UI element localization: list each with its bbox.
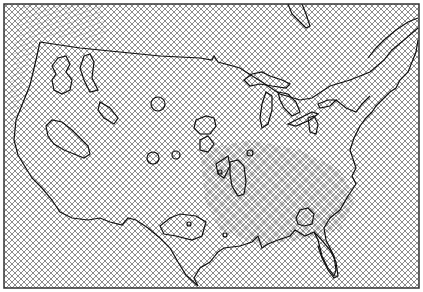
map-figure <box>0 0 423 292</box>
hatch-background <box>4 4 419 288</box>
map-canvas <box>0 0 423 292</box>
